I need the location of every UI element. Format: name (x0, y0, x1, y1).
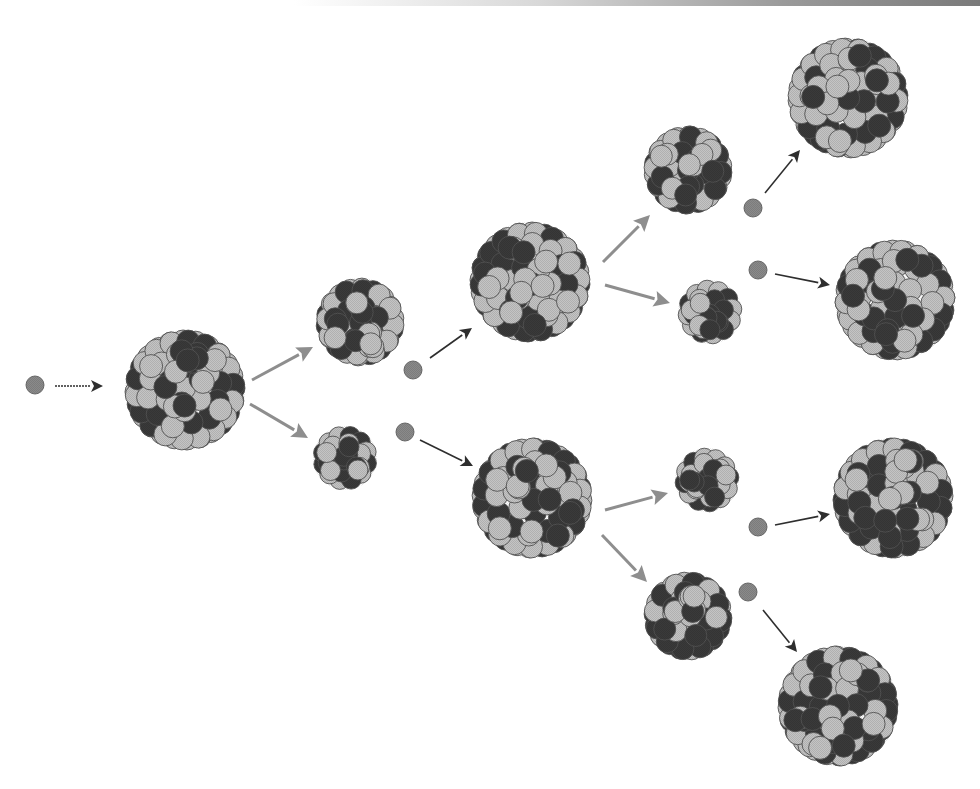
nucleus-texture (316, 278, 404, 366)
fission-path-2c (605, 489, 668, 510)
arrow-head (91, 380, 103, 392)
released-neutron-2b (749, 261, 767, 279)
arrow-head (459, 328, 472, 340)
arrow-shaft (252, 355, 299, 380)
nucleus-texture (675, 448, 739, 512)
arrow-shaft (250, 404, 294, 430)
arrow-head (650, 489, 668, 504)
fission-path-1a (252, 347, 313, 380)
neutron-texture (749, 261, 767, 279)
heavy-nucleus-gen-3d (778, 646, 898, 766)
neutron-path-2a (765, 150, 800, 193)
released-neutron-2a (744, 199, 762, 217)
neutron-texture (404, 361, 422, 379)
fission-fragment-2d (644, 572, 732, 660)
fission-fragment-1b (313, 426, 377, 490)
nucleus-texture (788, 38, 908, 158)
neutron-texture (26, 376, 44, 394)
arrow-head (788, 150, 800, 163)
heavy-nucleus-gen-1 (125, 330, 245, 450)
arrow-shaft (775, 274, 818, 283)
nucleus-texture (678, 280, 742, 344)
fission-fragment-2c (675, 448, 739, 512)
arrow-shaft (775, 516, 818, 525)
incoming-neutron (26, 376, 44, 394)
arrow-head (785, 639, 797, 652)
arrow-shaft (603, 226, 639, 262)
released-neutron-2d (739, 583, 757, 601)
arrow-shaft (605, 285, 655, 299)
fission-path-2a (603, 215, 650, 262)
neutron-path-2d (763, 610, 797, 652)
fission-path-1b (250, 404, 308, 438)
fission-path-2b (605, 285, 670, 306)
heavy-nucleus-gen-2a (470, 222, 590, 342)
nucleus-texture (125, 330, 245, 450)
fission-fragment-2a (644, 126, 732, 214)
arrow-head (817, 510, 830, 522)
released-neutron-2c (749, 518, 767, 536)
arrow-shaft (763, 610, 789, 643)
fission-fragment-2b (678, 280, 742, 344)
neutron-texture (739, 583, 757, 601)
arrow-head (817, 277, 830, 289)
nucleus-texture (644, 572, 732, 660)
arrow-shaft (420, 440, 462, 461)
neutron-texture (396, 423, 414, 441)
neutron-texture (744, 199, 762, 217)
heavy-nucleus-gen-2b (472, 438, 592, 558)
nucleus-texture (835, 240, 955, 360)
fission-chain-diagram (0, 0, 980, 789)
arrow-shaft (605, 497, 653, 510)
arrow-shaft (602, 535, 636, 570)
nucleus-texture (833, 438, 953, 558)
fission-fragment-1a (316, 278, 404, 366)
nucleus-texture (313, 426, 377, 490)
released-neutron-1b (396, 423, 414, 441)
neutron-path-1a (430, 328, 472, 358)
nodes-layer (26, 38, 955, 766)
arrow-shaft (430, 335, 462, 358)
heavy-nucleus-gen-3b (835, 240, 955, 360)
arrow-head (652, 291, 670, 306)
neutron-path-0 (55, 380, 103, 392)
heavy-nucleus-gen-3c (833, 438, 953, 558)
neutron-path-1b (420, 440, 473, 466)
neutron-path-2c (775, 510, 830, 525)
nucleus-texture (778, 646, 898, 766)
heavy-nucleus-gen-3a (788, 38, 908, 158)
nucleus-texture (644, 126, 732, 214)
fission-path-2d (602, 535, 647, 582)
arrow-shaft (765, 159, 792, 193)
neutron-texture (749, 518, 767, 536)
nucleus-texture (472, 438, 592, 558)
released-neutron-1a (404, 361, 422, 379)
neutron-path-2b (775, 274, 830, 289)
nucleus-texture (470, 222, 590, 342)
